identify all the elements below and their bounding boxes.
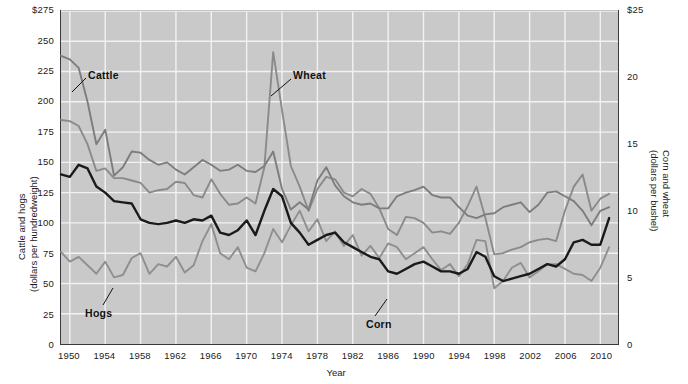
series-label-corn: Corn [366, 318, 392, 330]
series-label-wheat: Wheat [293, 69, 326, 81]
chart-root: Cattle and hogs (dollars per hundredweig… [0, 0, 688, 384]
series-label-cattle: Cattle [88, 69, 119, 81]
annotation-leader-lines [0, 0, 688, 384]
series-label-hogs: Hogs [85, 307, 112, 319]
